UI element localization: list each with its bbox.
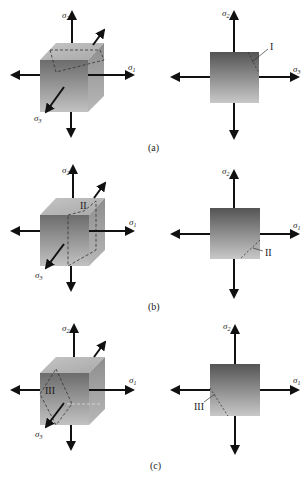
- label-sigma1: σ1: [128, 62, 135, 73]
- plane-label: III: [45, 385, 55, 396]
- panel-a: σ2 σ1 σ3 σ2 σ3 I (a): [12, 8, 300, 154]
- square-b: σ2 σ1 II: [172, 166, 300, 297]
- label-sigma2: σ2: [62, 323, 69, 334]
- label-sigma2: σ2: [62, 165, 69, 176]
- cube-b: II σ2 σ1 σ3: [12, 165, 136, 290]
- caption-c: (c): [150, 460, 161, 472]
- principal-stress-planes-figure: σ2 σ1 σ3 σ2 σ3 I (a): [0, 0, 305, 477]
- square-element: [210, 208, 260, 259]
- label-sigma1: σ1: [129, 375, 136, 386]
- square-a: σ2 σ3 I: [172, 8, 300, 138]
- panel-b: II σ2 σ1 σ3 σ2 σ1 II (b): [12, 165, 300, 313]
- panel-c: III σ2 σ1 σ3 σ2 σ1 III (c): [12, 321, 300, 472]
- plane-label: I: [270, 41, 273, 52]
- plane-label: II: [265, 247, 272, 258]
- cube-front-face: [40, 60, 88, 112]
- label-sigma1: σ1: [129, 217, 136, 228]
- sigma3-back-arrow: [94, 342, 105, 357]
- plane-label: II: [80, 200, 87, 211]
- caption-b: (b): [148, 301, 160, 313]
- label-sigma1: σ1: [293, 375, 300, 386]
- label-sigma3: σ3: [35, 270, 42, 281]
- label-sigma2: σ2: [222, 8, 229, 19]
- plane-label: III: [194, 401, 204, 412]
- label-sigma3: σ3: [35, 429, 42, 440]
- sigma3-back-arrow: [93, 30, 104, 45]
- cube-front-face: [40, 373, 89, 425]
- cube-c: III σ2 σ1 σ3: [12, 323, 136, 449]
- figure-canvas: σ2 σ1 σ3 σ2 σ3 I (a): [0, 0, 305, 477]
- label-sigma3: σ3: [293, 64, 300, 75]
- sigma3-back-arrow: [94, 183, 105, 198]
- square-c: σ2 σ1 III: [172, 321, 300, 453]
- caption-a: (a): [148, 142, 159, 154]
- label-sigma2: σ2: [62, 10, 69, 21]
- cube-a: σ2 σ1 σ3: [12, 10, 135, 136]
- square-element: [210, 364, 260, 416]
- label-sigma1: σ1: [293, 220, 300, 231]
- label-sigma3: σ3: [34, 113, 41, 124]
- label-sigma2: σ2: [222, 166, 229, 177]
- label-sigma2: σ2: [223, 321, 230, 332]
